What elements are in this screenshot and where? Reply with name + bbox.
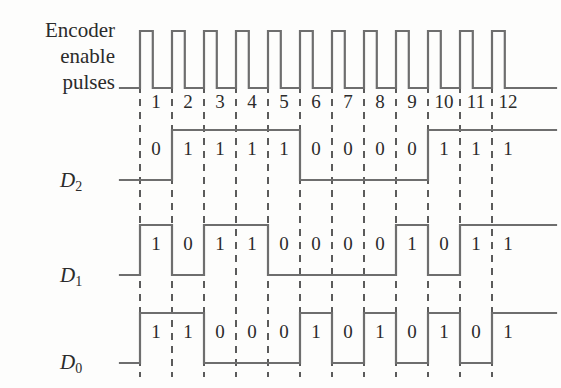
cell-number: 8 — [364, 91, 396, 113]
cell-number: 3 — [204, 91, 236, 113]
bit-value-d2: 0 — [332, 138, 364, 160]
bit-value-d0: 0 — [204, 321, 236, 343]
bit-value-d2: 1 — [236, 138, 268, 160]
waveform-traces — [120, 31, 556, 363]
cell-number: 2 — [172, 91, 204, 113]
bit-value-d0: 1 — [140, 321, 172, 343]
bit-value-d1: 0 — [172, 233, 204, 255]
bit-value-d0: 0 — [396, 321, 428, 343]
bit-value-d2: 1 — [492, 138, 524, 160]
bit-value-d0: 0 — [268, 321, 300, 343]
bit-value-d2: 0 — [300, 138, 332, 160]
bit-value-d0: 0 — [460, 321, 492, 343]
clock-waveform — [120, 31, 556, 88]
cell-number: 10 — [428, 91, 460, 113]
bit-value-d0: 1 — [492, 321, 524, 343]
bit-value-d1: 0 — [332, 233, 364, 255]
bit-value-d2: 1 — [204, 138, 236, 160]
bit-value-d1: 1 — [396, 233, 428, 255]
cell-number: 11 — [460, 91, 492, 113]
bit-value-d2: 0 — [364, 138, 396, 160]
bit-value-d2: 0 — [396, 138, 428, 160]
cell-number: 5 — [268, 91, 300, 113]
bit-value-d1: 1 — [140, 233, 172, 255]
cell-number: 7 — [332, 91, 364, 113]
cell-number: 1 — [140, 91, 172, 113]
cell-number: 4 — [236, 91, 268, 113]
bit-value-d1: 0 — [268, 233, 300, 255]
bit-value-d2: 0 — [140, 138, 172, 160]
bit-value-d1: 1 — [460, 233, 492, 255]
bit-value-d1: 0 — [364, 233, 396, 255]
cell-number: 9 — [396, 91, 428, 113]
timing-diagram-figure: Encoder enable pulses D2 D1 D0 123456789… — [0, 0, 561, 388]
bit-value-d2: 1 — [460, 138, 492, 160]
bit-value-d1: 0 — [428, 233, 460, 255]
bit-value-d0: 1 — [172, 321, 204, 343]
bit-value-d0: 0 — [332, 321, 364, 343]
bit-value-d2: 1 — [428, 138, 460, 160]
bit-value-d1: 1 — [204, 233, 236, 255]
bit-value-d0: 0 — [236, 321, 268, 343]
bit-value-d0: 1 — [300, 321, 332, 343]
bit-value-d1: 0 — [300, 233, 332, 255]
bit-value-d0: 1 — [364, 321, 396, 343]
cell-number: 12 — [492, 91, 524, 113]
bit-value-d1: 1 — [492, 233, 524, 255]
bit-value-d2: 1 — [268, 138, 300, 160]
bit-value-d2: 1 — [172, 138, 204, 160]
bit-value-d0: 1 — [428, 321, 460, 343]
cell-number: 6 — [300, 91, 332, 113]
bit-value-d1: 1 — [236, 233, 268, 255]
